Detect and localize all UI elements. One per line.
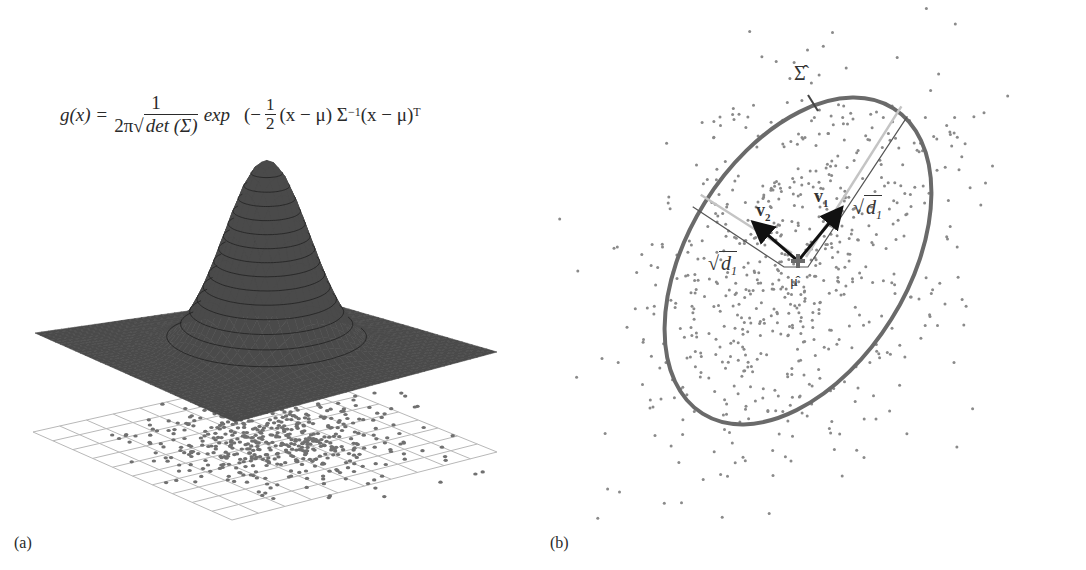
principal-axes <box>693 106 908 267</box>
panel-a-label: (a) <box>14 534 32 552</box>
sqrt-d1-right-label: √d1 <box>853 196 882 223</box>
panel-a-gaussian-surface: g(x) = 1 2π√det (Σ) exp (− 1 2 (x − μ) Σ… <box>0 0 540 570</box>
scatter-ellipse-plot <box>540 0 1086 570</box>
v2-arrow <box>755 224 798 261</box>
scatter-points <box>558 7 1009 520</box>
sqrt-sign-icon: √ <box>708 252 719 274</box>
sigma-hat-label: Σ̂ <box>794 62 806 85</box>
sqrt-d1-left-label: √d1 <box>708 252 737 279</box>
panel-b-label: (b) <box>550 534 569 552</box>
v2-label: v2 <box>756 200 771 223</box>
surface-plot <box>0 0 540 570</box>
sqrt-sign-icon: √ <box>853 196 864 218</box>
v1-label: v1 <box>814 186 829 209</box>
mu-hat-label: μ̂ <box>790 273 798 290</box>
panel-b-covariance-ellipse: Σ̂ μ̂ v1 v2 √d1 √d1 (b) <box>540 0 1086 570</box>
